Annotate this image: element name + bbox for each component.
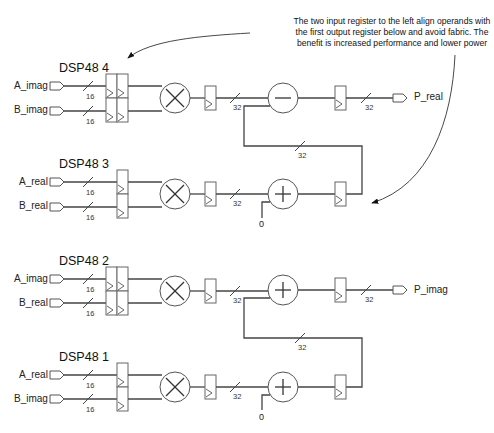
dsp48-1-block — [50, 363, 346, 411]
bus-width: 16 — [86, 213, 94, 222]
bus-width: 16 — [86, 92, 94, 101]
annotation-line: The two input register to the left align… — [272, 16, 494, 27]
carry-in-value: 0 — [259, 412, 264, 422]
bus-width: 16 — [86, 117, 94, 126]
input-port-label: A_imag — [14, 273, 48, 284]
input-port-label: A_imag — [14, 80, 48, 91]
dsp48-4-block — [50, 74, 407, 194]
input-port-label: A_real — [19, 369, 48, 380]
dsp48-3-block — [50, 170, 346, 218]
dsp48-2-title: DSP48 2 — [59, 254, 109, 268]
dsp48-1-title: DSP48 1 — [59, 350, 109, 364]
input-port-label: B_real — [19, 297, 48, 308]
input-port-label: A_real — [19, 176, 48, 187]
output-port-label: P_imag — [414, 284, 448, 295]
input-port-label: B_real — [19, 200, 48, 211]
bus-width: 32 — [298, 151, 306, 160]
bus-width: 32 — [233, 392, 241, 401]
dsp48-3-title: DSP48 3 — [59, 157, 109, 171]
dsp48-4-title: DSP48 4 — [59, 61, 109, 75]
bus-width: 32 — [233, 296, 241, 305]
bus-width: 16 — [86, 309, 94, 318]
annotation-line: benefit is increased performance and low… — [272, 38, 494, 49]
bus-width: 32 — [365, 295, 373, 304]
bus-width: 32 — [233, 103, 241, 112]
bus-width: 32 — [298, 343, 306, 352]
output-port-label: P_real — [414, 91, 443, 102]
annotation-note: The two input register to the left align… — [272, 16, 494, 49]
bus-width: 16 — [86, 285, 94, 294]
bus-width: 32 — [365, 103, 373, 112]
bus-width: 16 — [86, 188, 94, 197]
input-port-label: B_imag — [14, 393, 48, 404]
annotation-line: the first output register below and avoi… — [272, 27, 494, 38]
annotation-arrow-right — [372, 55, 455, 203]
annotation-arrow-left — [128, 33, 250, 58]
bus-width: 32 — [233, 199, 241, 208]
carry-in-value: 0 — [259, 219, 264, 229]
dsp48-2-block — [50, 267, 407, 387]
bus-width: 16 — [86, 405, 94, 414]
input-port-label: B_imag — [14, 104, 48, 115]
bus-width: 16 — [86, 381, 94, 390]
